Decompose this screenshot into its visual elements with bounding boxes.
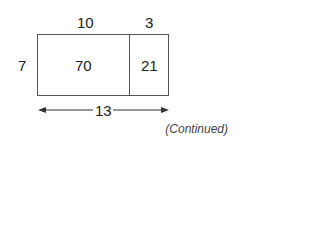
total-width-label: 13 bbox=[95, 103, 112, 118]
continued-note: (Continued) bbox=[165, 122, 228, 136]
